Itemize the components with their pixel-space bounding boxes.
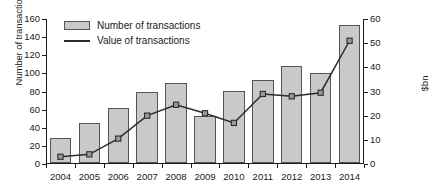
- line-swatch-icon: [64, 36, 90, 45]
- line-marker: [318, 90, 323, 95]
- line-marker: [173, 102, 178, 107]
- legend-item-line: Value of transactions: [64, 34, 200, 47]
- y-tick-right: [364, 140, 368, 141]
- y-axis-right-title: $bn: [419, 61, 430, 107]
- line-marker: [202, 111, 207, 116]
- x-tick: [277, 164, 278, 168]
- y-ticklabel-right: 50: [370, 38, 381, 48]
- x-tick: [191, 164, 192, 168]
- line-marker: [289, 94, 294, 99]
- x-tick: [162, 164, 163, 168]
- y-ticklabel-left: 20: [29, 141, 40, 151]
- line-marker: [87, 152, 92, 157]
- y-tick-right: [364, 43, 368, 44]
- x-tick: [133, 164, 134, 168]
- y-tick-right: [364, 92, 368, 93]
- x-tick: [75, 164, 76, 168]
- y-ticklabel-left: 160: [24, 14, 40, 24]
- legend-item-bar: Number of transactions: [64, 19, 200, 32]
- y-ticklabel-right: 30: [370, 87, 381, 97]
- y-ticklabel-left: 0: [35, 159, 40, 169]
- line-marker: [260, 91, 265, 96]
- line-marker: [145, 113, 150, 118]
- x-tick: [46, 164, 47, 168]
- bar-swatch-icon: [64, 21, 90, 30]
- line-marker: [231, 120, 236, 125]
- chart-legend: Number of transactions Value of transact…: [64, 19, 200, 49]
- line-marker: [116, 136, 121, 141]
- chart-container: Number of transactions $bn 0204060801001…: [0, 0, 433, 193]
- y-ticklabel-left: 60: [29, 105, 40, 115]
- y-ticklabel-right: 10: [370, 135, 381, 145]
- y-ticklabel-right: 40: [370, 62, 381, 72]
- x-tick: [219, 164, 220, 168]
- line-marker: [347, 38, 352, 43]
- y-ticklabel-left: 140: [24, 32, 40, 42]
- x-tick: [364, 164, 365, 168]
- y-tick-right: [364, 67, 368, 68]
- x-tick: [306, 164, 307, 168]
- x-tick: [248, 164, 249, 168]
- y-ticklabel-left: 40: [29, 123, 40, 133]
- y-ticklabel-left: 80: [29, 87, 40, 97]
- y-ticklabel-right: 0: [370, 159, 375, 169]
- legend-label-bar: Number of transactions: [97, 19, 200, 32]
- x-tick: [335, 164, 336, 168]
- legend-label-line: Value of transactions: [97, 34, 190, 47]
- y-tick-right: [364, 116, 368, 117]
- y-ticklabel-right: 20: [370, 111, 381, 121]
- x-ticklabel: 2014: [330, 172, 370, 182]
- y-axis-left-title: Number of transactions: [13, 0, 24, 108]
- y-ticklabel-left: 120: [24, 50, 40, 60]
- x-tick: [104, 164, 105, 168]
- y-ticklabel-left: 100: [24, 68, 40, 78]
- line-marker: [58, 154, 63, 159]
- line-path: [60, 41, 349, 157]
- y-tick-right: [364, 19, 368, 20]
- y-ticklabel-right: 60: [370, 14, 381, 24]
